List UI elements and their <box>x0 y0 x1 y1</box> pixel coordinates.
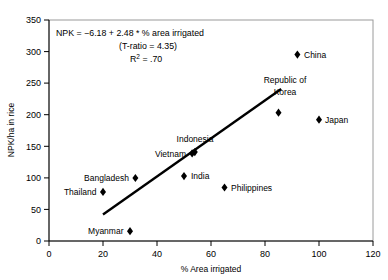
y-tick-label: 100 <box>26 173 41 183</box>
x-tick-label: 20 <box>98 249 108 259</box>
data-point-bangladesh <box>132 174 138 182</box>
point-label-korea-line2: Korea <box>274 87 297 97</box>
x-tick-label: 120 <box>365 249 380 259</box>
y-tick-label: 250 <box>26 78 41 88</box>
data-point-labels: China Japan Republic of Korea Indonesia … <box>64 50 349 237</box>
data-point-china <box>294 51 300 59</box>
regression-equation: NPK = −6.18 + 2.48 * % area irrigated <box>56 28 204 38</box>
r-squared-value: = .70 <box>140 54 162 64</box>
point-label-myanmar: Myanmar <box>88 226 124 236</box>
y-tick-label: 0 <box>36 236 41 246</box>
point-label-thailand: Thailand <box>64 187 97 197</box>
x-axis-tick-labels: 0 20 40 60 80 100 120 <box>46 249 380 259</box>
y-tick-label: 300 <box>26 47 41 57</box>
point-label-india: India <box>191 171 210 181</box>
scatter-chart: 0 50 100 150 200 250 300 350 0 20 40 60 … <box>0 0 388 280</box>
y-axis-tick-labels: 0 50 100 150 200 250 300 350 <box>26 15 41 246</box>
y-tick-label: 350 <box>26 15 41 25</box>
y-axis-ticks <box>44 20 49 241</box>
x-tick-label: 40 <box>152 249 162 259</box>
data-point-myanmar <box>127 227 133 235</box>
point-label-philippines: Philippines <box>231 183 272 193</box>
data-point-thailand <box>100 188 106 196</box>
y-tick-label: 50 <box>31 205 41 215</box>
y-tick-label: 150 <box>26 142 41 152</box>
point-label-china: China <box>304 50 326 60</box>
point-label-korea-line1: Republic of <box>264 75 307 85</box>
x-tick-label: 60 <box>206 249 216 259</box>
x-tick-label: 0 <box>46 249 51 259</box>
x-tick-label: 80 <box>260 249 270 259</box>
data-point-japan <box>316 116 322 124</box>
x-tick-label: 100 <box>311 249 326 259</box>
x-axis-title: % Area irrigated <box>181 264 242 274</box>
t-ratio-annotation: (T-ratio = 4.35) <box>119 41 177 51</box>
data-point-korea <box>276 109 282 117</box>
r-squared-annotation: R2 = .70 <box>130 53 162 65</box>
x-axis-ticks <box>49 241 373 246</box>
data-point-india <box>181 172 187 180</box>
y-tick-label: 200 <box>26 110 41 120</box>
point-label-indonesia: Indonesia <box>177 134 214 144</box>
y-axis-title: NPK/ha in rice <box>6 103 16 158</box>
point-label-vietnam: Vietnam <box>155 149 186 159</box>
point-label-japan: Japan <box>325 115 348 125</box>
point-label-bangladesh: Bangladesh <box>84 173 129 183</box>
data-point-philippines <box>222 183 228 191</box>
